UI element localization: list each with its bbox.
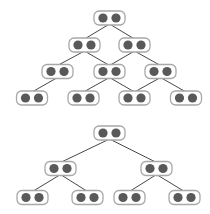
edge-top-dag-f-i [135, 78, 161, 93]
left-dot-icon [173, 193, 182, 202]
node-bottom-tree-v [72, 191, 103, 205]
node-bottom-tree-r [94, 126, 125, 140]
left-dot-icon [175, 93, 184, 102]
edge-top-dag-c-f [135, 51, 161, 66]
right-dot-icon [188, 93, 197, 102]
edge-top-dag-c-e [110, 51, 135, 66]
right-dot-icon [86, 40, 95, 49]
left-dot-icon [21, 93, 30, 102]
right-dot-icon [111, 13, 120, 22]
right-dot-icon [162, 67, 171, 76]
node-bottom-tree-t [141, 162, 172, 176]
node-top-dag-h [68, 91, 99, 105]
left-dot-icon [123, 93, 132, 102]
node-top-dag-g [17, 91, 48, 105]
node-top-dag-i [119, 91, 150, 105]
right-dot-icon [111, 67, 120, 76]
node-top-dag-a [94, 11, 125, 25]
right-dot-icon [111, 128, 120, 137]
left-dot-icon [149, 67, 158, 76]
diagram-canvas [0, 0, 210, 214]
left-dot-icon [72, 93, 81, 102]
right-dot-icon [131, 193, 140, 202]
edge-top-dag-a-c [110, 24, 135, 39]
node-bottom-tree-u [17, 191, 48, 205]
right-dot-icon [85, 93, 94, 102]
left-dot-icon [98, 128, 107, 137]
edge-bottom-tree-r-s [61, 139, 110, 163]
node-top-dag-e [94, 65, 125, 79]
left-dot-icon [98, 13, 107, 22]
node-top-dag-f [145, 65, 176, 79]
left-dot-icon [49, 164, 58, 173]
edge-bottom-tree-t-w [130, 175, 157, 192]
right-dot-icon [158, 164, 167, 173]
edge-bottom-tree-t-x [157, 175, 185, 192]
node-top-dag-c [119, 38, 150, 52]
right-dot-icon [89, 193, 98, 202]
edge-top-dag-a-b [85, 24, 110, 39]
edge-top-dag-d-g [32, 78, 58, 93]
edge-bottom-tree-s-u [33, 175, 61, 192]
edge-top-dag-e-i [110, 78, 135, 93]
left-dot-icon [98, 67, 107, 76]
node-bottom-tree-x [169, 191, 200, 205]
right-dot-icon [136, 93, 145, 102]
left-dot-icon [21, 193, 30, 202]
left-dot-icon [76, 193, 85, 202]
node-top-dag-b [69, 38, 100, 52]
right-dot-icon [62, 164, 71, 173]
left-dot-icon [73, 40, 82, 49]
right-dot-icon [59, 67, 68, 76]
left-dot-icon [46, 67, 55, 76]
nodes-layer [17, 11, 202, 205]
left-dot-icon [123, 40, 132, 49]
edge-bottom-tree-r-t [110, 139, 157, 163]
node-top-dag-d [42, 65, 73, 79]
edge-top-dag-b-e [85, 51, 110, 66]
edge-bottom-tree-s-v [61, 175, 88, 192]
left-dot-icon [118, 193, 127, 202]
node-bottom-tree-w [114, 191, 145, 205]
right-dot-icon [34, 193, 43, 202]
edge-top-dag-f-j [161, 78, 187, 93]
right-dot-icon [186, 193, 195, 202]
node-bottom-tree-s [45, 162, 76, 176]
node-top-dag-j [171, 91, 202, 105]
edge-top-dag-e-h [84, 78, 110, 93]
right-dot-icon [136, 40, 145, 49]
edge-top-dag-b-d [58, 51, 85, 66]
right-dot-icon [34, 93, 43, 102]
left-dot-icon [145, 164, 154, 173]
